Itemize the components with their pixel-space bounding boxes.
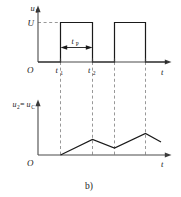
- uC-axis-label-subscript: C: [31, 104, 35, 110]
- u1-pulse-waveform: [38, 23, 167, 63]
- figure-container: u 1 U O t 1 t 2 t P t u 2 =: [0, 0, 181, 197]
- level-label-U: U: [28, 18, 35, 28]
- figure-caption: b): [85, 181, 93, 192]
- origin-label-top: O: [27, 65, 34, 75]
- u1-axis-label: u: [31, 3, 35, 13]
- panel-capacitor-voltage: u 2 = u C O t: [13, 100, 172, 170]
- tick-label-t2-subscript: 2: [93, 70, 96, 76]
- dimension-arrow-left: [61, 45, 68, 50]
- u2-axis-label-equals: =: [20, 100, 25, 109]
- t-axis-label-bottom: t: [161, 159, 164, 169]
- u2-axis-label: u: [13, 100, 17, 109]
- u2-axis-arrowhead: [35, 100, 40, 107]
- u1-axis-label-subscript: 1: [35, 8, 38, 14]
- tick-label-t1-subscript: 1: [60, 70, 63, 76]
- origin-label-bottom: O: [27, 158, 34, 168]
- panel-input-pulse: u 1 U O t 1 t 2 t P t: [27, 3, 172, 77]
- tick-label-t2: t: [88, 65, 91, 75]
- uC-axis-label: u: [27, 100, 31, 109]
- t-axis-bottom-arrowhead: [165, 152, 172, 157]
- dashed-connector-group: [61, 62, 146, 155]
- tick-label-t1: t: [56, 65, 59, 75]
- t-axis-label-top: t: [161, 67, 164, 77]
- dimension-arrow-right: [86, 45, 93, 50]
- pulse-width-label: t: [72, 37, 75, 46]
- timing-diagram-svg: u 1 U O t 1 t 2 t P t u 2 =: [0, 0, 181, 197]
- pulse-width-label-subscript: P: [76, 41, 79, 47]
